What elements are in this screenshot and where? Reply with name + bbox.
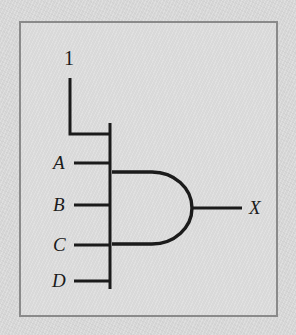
label-constant-one: 1 [64, 48, 74, 68]
label-input-b: B [53, 195, 65, 214]
wire-constant-one [70, 78, 110, 134]
label-input-d: D [52, 271, 66, 290]
and-gate-body [112, 172, 192, 244]
label-input-a: A [53, 153, 65, 172]
label-input-c: C [53, 235, 66, 254]
label-output-x: X [249, 198, 261, 217]
figure-root: 1 A B C D X [0, 0, 296, 335]
circuit-diagram [0, 0, 296, 335]
